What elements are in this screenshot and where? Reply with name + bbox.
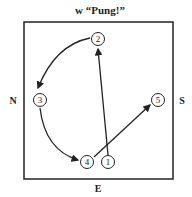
position-1-label: 1 (106, 157, 111, 167)
arrow-3-to-4 (40, 108, 78, 160)
direction-north-label: N (9, 95, 17, 106)
position-4-label: 4 (85, 157, 90, 167)
tile-movement-diagram: w “Pung!” N S E 1 2 3 4 5 (0, 0, 192, 197)
arrow-2-to-3 (38, 38, 90, 88)
position-1: 1 (102, 156, 115, 169)
diagram-title: w “Pung!” (75, 4, 125, 16)
direction-south-label: S (179, 95, 185, 106)
position-2: 2 (92, 33, 105, 46)
position-3-label: 3 (38, 95, 43, 105)
arrow-4-to-5 (94, 105, 150, 157)
arrow-1-to-2 (98, 49, 108, 155)
position-4: 4 (81, 156, 94, 169)
position-2-label: 2 (96, 34, 101, 44)
position-5-label: 5 (156, 95, 161, 105)
direction-east-label: E (95, 183, 102, 194)
position-5: 5 (152, 94, 165, 107)
position-3: 3 (34, 94, 47, 107)
